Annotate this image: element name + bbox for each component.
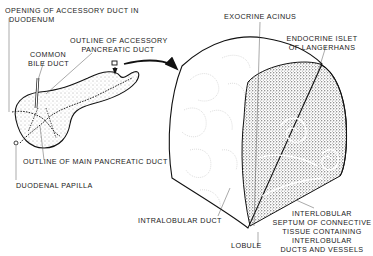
label-outline-accessory-duct: OUTLINE OF ACCESSORY (70, 36, 166, 45)
label-endocrine-islet: ENDOCRINE ISLET (282, 34, 362, 43)
label-outline-main-duct: OUTLINE OF MAIN PANCREATIC DUCT (23, 157, 168, 166)
label-lobule: LOBULE (231, 241, 262, 250)
label-opening-accessory-duct-line2: DUODENUM (9, 15, 55, 24)
pancreas-outline (15, 72, 139, 148)
label-exocrine-acinus: EXOCRINE ACINUS (224, 12, 296, 21)
label-duodenal-papilla: DUODENAL PAPILLA (16, 181, 93, 190)
label-interlobular-septum-2: SEPTUM OF CONNECTIVE (272, 218, 372, 227)
magnify-arrow (124, 61, 176, 68)
label-interlobular-septum-3: TISSUE CONTAINING (272, 227, 372, 236)
label-opening-accessory-duct: OPENING OF ACCESSORY DUCT IN (5, 6, 139, 15)
sample-block (112, 61, 117, 65)
label-intralobular-duct: INTRALOBULAR DUCT (138, 216, 222, 225)
label-common-bile-duct-line2: BILE DUCT (28, 59, 68, 68)
pancreas-diagram: OPENING OF ACCESSORY DUCT IN DUODENUM CO… (0, 0, 373, 256)
label-outline-accessory-duct-line2: PANCREATIC DUCT (70, 45, 166, 54)
label-common-bile-duct: COMMON (28, 50, 68, 59)
label-endocrine-islet-line2: OF LANGERHANS (282, 43, 362, 52)
cut-face (242, 62, 347, 226)
label-interlobular-septum-5: DUCTS AND VESSELS (272, 245, 372, 254)
label-interlobular-septum-1: INTERLOBULAR (272, 209, 372, 218)
label-interlobular-septum-4: INTERLOBULAR (272, 236, 372, 245)
